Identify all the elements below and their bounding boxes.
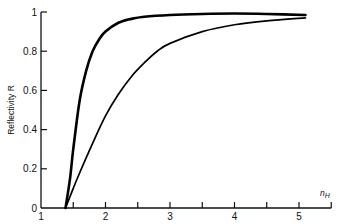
series-line-lower — [66, 18, 306, 208]
x-tick-label: 4 — [232, 211, 238, 222]
axes — [41, 12, 331, 208]
x-tick-label: 2 — [103, 211, 109, 222]
x-ticks: 12345 — [38, 202, 331, 222]
x-axis-label-subscript: H — [325, 192, 331, 199]
y-tick-label: 0.2 — [23, 163, 37, 174]
y-ticks: 00.20.40.60.81 — [23, 7, 47, 214]
series-group — [66, 14, 306, 208]
x-tick-label: 1 — [38, 211, 44, 222]
x-axis-label: nH — [320, 188, 331, 199]
y-tick-label: 0.8 — [23, 46, 37, 57]
x-tick-label: 3 — [167, 211, 173, 222]
series-line-upper — [66, 14, 306, 208]
x-tick-label: 5 — [296, 211, 302, 222]
y-tick-label: 0 — [31, 203, 37, 214]
reflectivity-chart: 12345 00.20.40.60.81 Reflectivity R nH — [0, 0, 339, 224]
y-tick-label: 0.4 — [23, 124, 37, 135]
y-axis-label: Reflectivity R — [6, 85, 16, 135]
y-tick-label: 0.6 — [23, 85, 37, 96]
y-tick-label: 1 — [31, 7, 37, 18]
